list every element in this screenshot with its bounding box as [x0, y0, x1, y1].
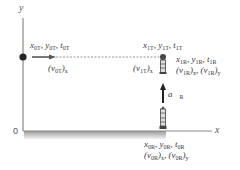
rocket-final-velocity-label: (v1R)x, (v1R)y [176, 65, 221, 78]
rocket-initial-icon [160, 106, 167, 129]
rocket-final-icon [160, 58, 167, 75]
target-final-velocity-label: (v1T)x [133, 63, 153, 76]
acceleration-arrowhead [160, 83, 166, 90]
diagram-canvas [0, 0, 240, 170]
x-axis-label: x [215, 124, 219, 135]
rocket-initial-velocity-label: (v0R)x, (v0R)y [144, 150, 189, 163]
target-final-label: x1T, y1T, t1T [143, 40, 183, 53]
ground-shading [24, 131, 166, 139]
target-dot-initial [19, 53, 26, 60]
acceleration-label: a⃗R [168, 89, 184, 102]
y-axis-label: y [19, 2, 23, 13]
target-initial-label: x0T, y0T, t0T [30, 40, 70, 53]
velocity-arrowhead [49, 55, 56, 60]
target-initial-velocity-label: (v0T)x [48, 63, 68, 76]
origin-label: 0 [13, 126, 18, 136]
